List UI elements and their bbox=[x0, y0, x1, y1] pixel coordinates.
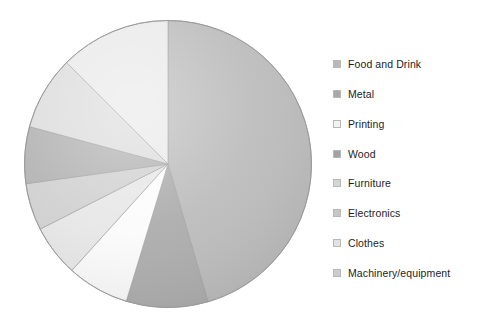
legend-item-label: Metal bbox=[348, 88, 374, 100]
legend-swatch-icon bbox=[333, 60, 341, 68]
legend-swatch-icon bbox=[333, 209, 341, 217]
legend-item-label: Electronics bbox=[348, 207, 400, 219]
legend-item-wood[interactable]: Wood bbox=[333, 146, 491, 162]
pie-chart-svg bbox=[18, 14, 318, 314]
legend-item-clothes[interactable]: Clothes bbox=[333, 235, 491, 251]
legend-swatch-icon bbox=[333, 179, 341, 187]
legend-item-label: Clothes bbox=[348, 237, 384, 249]
legend-swatch-icon bbox=[333, 239, 341, 247]
pie-chart-plot-area bbox=[18, 14, 318, 314]
legend-item-food-and-drink[interactable]: Food and Drink bbox=[333, 56, 491, 72]
legend-item-electronics[interactable]: Electronics bbox=[333, 205, 491, 221]
legend-swatch-icon bbox=[333, 269, 341, 277]
legend-item-label: Food and Drink bbox=[348, 58, 421, 70]
legend-swatch-icon bbox=[333, 120, 341, 128]
pie-sheen-overlay bbox=[25, 21, 312, 308]
legend-item-label: Furniture bbox=[348, 177, 391, 189]
pie-chart-figure: Food and Drink Metal Printing Wood Furni… bbox=[0, 0, 491, 325]
legend-item-printing[interactable]: Printing bbox=[333, 116, 491, 132]
legend-item-furniture[interactable]: Furniture bbox=[333, 175, 491, 191]
legend-item-machinery-equipment[interactable]: Machinery/equipment bbox=[333, 265, 491, 281]
legend-item-label: Printing bbox=[348, 118, 384, 130]
legend-swatch-icon bbox=[333, 90, 341, 98]
legend-item-label: Wood bbox=[348, 148, 376, 160]
legend-swatch-icon bbox=[333, 150, 341, 158]
legend-item-label: Machinery/equipment bbox=[348, 267, 450, 279]
legend-item-metal[interactable]: Metal bbox=[333, 86, 491, 102]
chart-legend: Food and Drink Metal Printing Wood Furni… bbox=[333, 56, 491, 281]
